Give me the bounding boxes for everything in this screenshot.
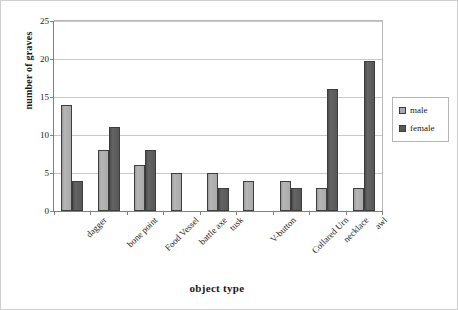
bar-group xyxy=(236,21,272,211)
bar-female xyxy=(291,188,302,211)
bar-female xyxy=(72,181,83,211)
bar-group xyxy=(200,21,236,211)
y-tick-label: 10 xyxy=(40,130,49,140)
y-tick-label: 25 xyxy=(40,16,49,26)
legend-label-female: female xyxy=(410,124,434,133)
bar-male xyxy=(171,173,182,211)
x-tick-label: dagger xyxy=(84,215,108,239)
legend-label-male: male xyxy=(410,106,428,115)
bar-female xyxy=(218,188,229,211)
bar-female xyxy=(109,127,120,211)
x-tick-mark xyxy=(346,211,347,215)
x-tick-mark xyxy=(309,211,310,215)
bar-male xyxy=(243,181,254,211)
bar-group xyxy=(309,21,345,211)
bar-male xyxy=(134,165,145,211)
legend-item-female: female xyxy=(399,122,443,135)
x-tick-mark xyxy=(273,211,274,215)
bar-group xyxy=(346,21,382,211)
bar-group xyxy=(127,21,163,211)
legend-swatch-male-icon xyxy=(399,107,406,114)
chart-legend: male female xyxy=(392,97,449,142)
x-axis-title: object type xyxy=(53,282,381,294)
x-tick-mark xyxy=(163,211,164,215)
bar-group xyxy=(163,21,199,211)
plot-frame-right xyxy=(382,20,383,211)
legend-swatch-female-icon xyxy=(399,125,406,132)
bar-male xyxy=(98,150,109,211)
x-tick-label: Food Vessel xyxy=(163,215,201,253)
y-tick-label: 20 xyxy=(40,54,49,64)
legend-item-male: male xyxy=(399,104,443,117)
x-tick-mark xyxy=(200,211,201,215)
x-tick-label: bone point xyxy=(125,215,159,249)
bar-male xyxy=(61,105,72,211)
bar-group xyxy=(90,21,126,211)
x-tick-mark xyxy=(90,211,91,215)
y-tick-label: 0 xyxy=(45,206,50,216)
y-tick-label: 15 xyxy=(40,92,49,102)
y-axis-title: number of graves xyxy=(23,0,34,146)
bar-male xyxy=(353,188,364,211)
bar-female xyxy=(145,150,156,211)
bar-male xyxy=(316,188,327,211)
bar-female xyxy=(327,89,338,211)
x-tick-label: V-button xyxy=(269,215,298,244)
y-tick-label: 5 xyxy=(45,168,50,178)
bar-male xyxy=(280,181,291,211)
bar-male xyxy=(207,173,218,211)
chart-figure: number of graves object type 0510152025 … xyxy=(0,0,458,310)
x-tick-mark xyxy=(127,211,128,215)
x-tick-mark xyxy=(54,211,55,215)
x-tick-label: battle axe xyxy=(197,215,229,247)
plot-area: 0510152025 xyxy=(53,21,382,212)
bar-group xyxy=(273,21,309,211)
bar-group xyxy=(54,21,90,211)
bar-female xyxy=(364,61,375,211)
x-tick-label: tusk xyxy=(227,215,245,233)
x-tick-label: awl xyxy=(373,215,389,231)
